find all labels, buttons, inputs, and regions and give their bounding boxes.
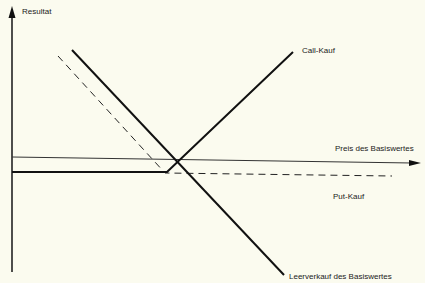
y-axis-arrow-icon <box>9 6 16 18</box>
x-axis-label: Preis des Basiswertes <box>335 144 414 153</box>
leerverkauf-label: Leerverkauf des Basiswertes <box>289 272 392 281</box>
call-kauf-label: Call-Kauf <box>302 46 336 55</box>
put-kauf-label: Put-Kauf <box>333 192 365 201</box>
payoff-diagram: Resultat Preis des Basiswertes Put-Kauf … <box>0 0 425 283</box>
y-axis <box>9 6 16 272</box>
y-axis-label: Resultat <box>22 7 52 16</box>
x-axis <box>12 157 421 166</box>
call-kauf-line <box>12 52 293 172</box>
x-axis-arrow-icon <box>409 160 421 166</box>
